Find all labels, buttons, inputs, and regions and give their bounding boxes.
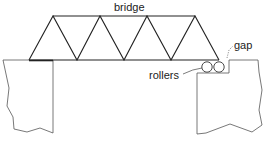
diagram-drawing [0, 0, 264, 144]
roller-2 [214, 62, 224, 72]
roller-1 [202, 62, 212, 72]
rollers-label: rollers [149, 70, 179, 81]
gap-label: gap [234, 40, 252, 51]
gap-leader-line [227, 46, 233, 58]
bridge-diagram: bridge gap rollers [0, 0, 264, 144]
truss-diagonals [29, 16, 219, 60]
bridge-label: bridge [114, 2, 145, 13]
left-pier [3, 60, 53, 133]
